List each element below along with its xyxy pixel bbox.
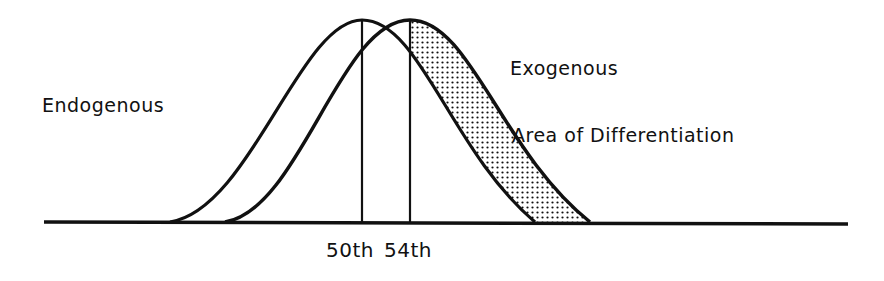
distribution-diagram — [0, 0, 884, 281]
percentile-50-label: 50th — [326, 238, 374, 262]
area-of-differentiation-shading — [170, 20, 590, 222]
percentile-54-label: 54th — [384, 238, 432, 262]
exogenous-label: Exogenous — [510, 57, 618, 79]
endogenous-label: Endogenous — [42, 94, 164, 116]
area-of-differentiation-label: Area of Differentiation — [512, 124, 735, 146]
baseline-axis — [44, 222, 848, 224]
